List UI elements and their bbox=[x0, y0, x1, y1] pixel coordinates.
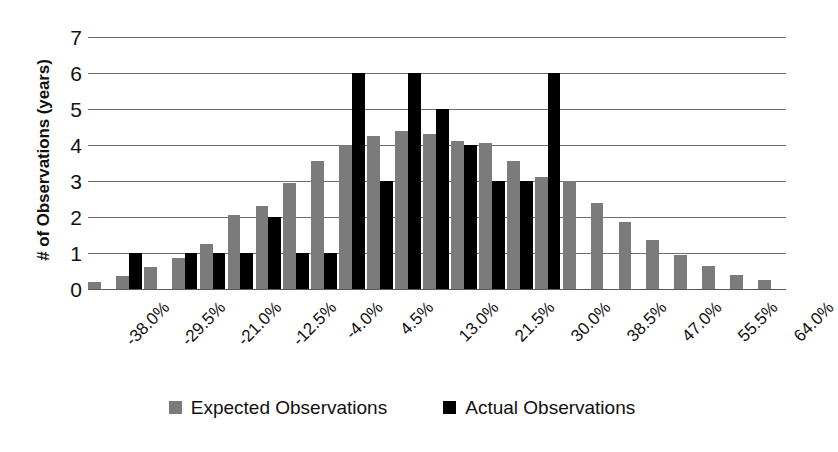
histogram-bin bbox=[283, 37, 311, 289]
y-tick-label-2: 2 bbox=[52, 207, 82, 228]
bar-expected bbox=[758, 280, 771, 289]
x-tick-label: 38.5% bbox=[623, 298, 671, 346]
y-tick-label-5: 5 bbox=[52, 99, 82, 120]
bar-expected bbox=[591, 203, 604, 289]
histogram-bin bbox=[144, 37, 172, 289]
x-tick-label: 55.5% bbox=[734, 298, 782, 346]
histogram-bin bbox=[563, 37, 591, 289]
histogram-bin bbox=[535, 37, 563, 289]
bar-expected bbox=[339, 145, 352, 289]
plot-area bbox=[88, 37, 786, 289]
histogram-bin bbox=[423, 37, 451, 289]
histogram-bin bbox=[591, 37, 619, 289]
histogram-bin bbox=[507, 37, 535, 289]
histogram-bin bbox=[256, 37, 284, 289]
bar-actual bbox=[464, 145, 477, 289]
x-tick-label: 13.0% bbox=[455, 298, 503, 346]
histogram-bin bbox=[730, 37, 758, 289]
bar-expected bbox=[311, 161, 324, 289]
x-tick-label: -38.0% bbox=[122, 298, 174, 350]
legend-item-actual[interactable]: Actual Observations bbox=[443, 398, 635, 417]
x-tick-label: -21.0% bbox=[233, 298, 285, 350]
x-tick-label: 47.0% bbox=[678, 298, 726, 346]
bar-actual bbox=[352, 73, 365, 289]
x-tick-label: -4.0% bbox=[342, 298, 388, 344]
bar-expected bbox=[535, 177, 548, 289]
histogram-bin bbox=[451, 37, 479, 289]
x-axis-labels: -38.0%-29.5%-21.0%-12.5%-4.0%4.5%13.0%21… bbox=[88, 292, 786, 370]
bar-expected bbox=[730, 275, 743, 289]
legend-label: Actual Observations bbox=[465, 398, 635, 417]
histogram-bin bbox=[479, 37, 507, 289]
bar-expected bbox=[88, 282, 101, 289]
bar-actual bbox=[324, 253, 337, 289]
legend-swatch-icon bbox=[443, 401, 456, 414]
x-tick-label: -12.5% bbox=[289, 298, 341, 350]
bar-actual bbox=[296, 253, 309, 289]
bar-series-group bbox=[88, 37, 786, 289]
bar-actual bbox=[436, 109, 449, 289]
y-axis-title: # of Observations (years) bbox=[34, 20, 54, 300]
bar-expected bbox=[256, 206, 269, 289]
bar-actual bbox=[520, 181, 533, 289]
bar-expected bbox=[283, 183, 296, 289]
y-axis-ticks: 01234567 bbox=[52, 37, 82, 289]
bar-expected bbox=[144, 267, 157, 289]
bar-actual bbox=[240, 253, 253, 289]
bar-expected bbox=[395, 131, 408, 289]
bar-expected bbox=[200, 244, 213, 289]
x-tick-label: 30.0% bbox=[567, 298, 615, 346]
bar-expected bbox=[228, 215, 241, 289]
y-tick-label-4: 4 bbox=[52, 135, 82, 156]
legend-swatch-icon bbox=[169, 401, 182, 414]
bar-actual bbox=[548, 73, 561, 289]
legend-label: Expected Observations bbox=[191, 398, 387, 417]
y-tick-label-0: 0 bbox=[52, 279, 82, 300]
histogram-bin bbox=[200, 37, 228, 289]
x-tick-label: 4.5% bbox=[397, 298, 439, 340]
bar-expected bbox=[619, 222, 632, 289]
y-tick-label-1: 1 bbox=[52, 243, 82, 264]
bar-actual bbox=[380, 181, 393, 289]
bar-actual bbox=[492, 181, 505, 289]
bar-expected bbox=[563, 181, 576, 289]
histogram-bin bbox=[758, 37, 786, 289]
gridline-0 bbox=[88, 289, 786, 290]
histogram-bin bbox=[646, 37, 674, 289]
bar-expected bbox=[674, 255, 687, 289]
y-tick-label-3: 3 bbox=[52, 171, 82, 192]
bar-actual bbox=[213, 253, 226, 289]
y-tick-label-7: 7 bbox=[52, 27, 82, 48]
x-tick-label: -29.5% bbox=[178, 298, 230, 350]
histogram-bin bbox=[88, 37, 116, 289]
histogram-bin bbox=[311, 37, 339, 289]
histogram-bin bbox=[367, 37, 395, 289]
histogram-bin bbox=[619, 37, 647, 289]
histogram-bin bbox=[228, 37, 256, 289]
bar-actual bbox=[268, 217, 281, 289]
legend-item-expected[interactable]: Expected Observations bbox=[169, 398, 387, 417]
x-tick-label: 64.0% bbox=[790, 298, 838, 346]
bar-expected bbox=[646, 240, 659, 289]
bar-actual bbox=[129, 253, 142, 289]
histogram-bin bbox=[172, 37, 200, 289]
bar-expected bbox=[367, 136, 380, 289]
bar-expected bbox=[702, 266, 715, 289]
bar-expected bbox=[116, 276, 129, 289]
histogram-bin bbox=[116, 37, 144, 289]
histogram-bin bbox=[395, 37, 423, 289]
histogram-bin bbox=[339, 37, 367, 289]
bar-expected bbox=[479, 143, 492, 289]
bar-expected bbox=[451, 141, 464, 289]
bar-expected bbox=[423, 134, 436, 289]
bar-actual bbox=[185, 253, 198, 289]
x-tick-label: 21.5% bbox=[511, 298, 559, 346]
bar-expected bbox=[172, 258, 185, 289]
bar-expected bbox=[507, 161, 520, 289]
y-tick-label-6: 6 bbox=[52, 63, 82, 84]
histogram-bin bbox=[674, 37, 702, 289]
bar-actual bbox=[408, 73, 421, 289]
chart-legend: Expected ObservationsActual Observations bbox=[0, 398, 804, 417]
histogram-bin bbox=[702, 37, 730, 289]
